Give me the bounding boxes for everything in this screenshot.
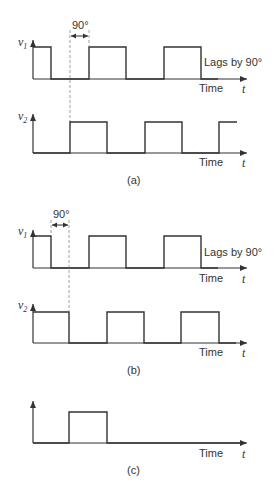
v2-square-wave xyxy=(33,122,237,153)
phase-label: 90° xyxy=(53,208,70,220)
single-pulse-wave xyxy=(33,412,240,443)
v1-label: v1 xyxy=(18,35,27,51)
time-axis-label: Time xyxy=(199,272,223,284)
t-axis-label: t xyxy=(242,447,246,461)
lag-note: Lags by 90° xyxy=(204,56,262,68)
lag-note: Lags by 90° xyxy=(204,246,262,258)
v1-square-wave xyxy=(33,236,218,268)
caption-b: (b) xyxy=(127,364,140,376)
v1-square-wave xyxy=(33,47,218,79)
t-axis-label: t xyxy=(242,156,246,170)
panel-b-v2-plot: v2 Time t xyxy=(18,298,247,360)
time-axis-label: Time xyxy=(199,82,223,94)
time-axis-label: Time xyxy=(199,447,223,459)
v2-label: v2 xyxy=(18,109,27,125)
v2-label: v2 xyxy=(18,298,27,314)
time-axis-label: Time xyxy=(199,346,223,358)
t-axis-label: t xyxy=(242,346,246,360)
panel-a-v1-plot: v1 90° Lags by 90° Time t xyxy=(18,19,262,96)
time-axis-label: Time xyxy=(199,156,223,168)
caption-a: (a) xyxy=(127,174,140,186)
v1-label: v1 xyxy=(18,224,27,240)
caption-c: (c) xyxy=(127,464,140,476)
panel-a-v2-plot: v2 Time t xyxy=(18,109,247,170)
panel-b: v1 90° Lags by 90° Time t v2 Time t (b) xyxy=(18,208,262,376)
v2-square-wave xyxy=(33,312,236,343)
t-axis-label: t xyxy=(242,82,246,96)
panel-b-v1-plot: v1 90° Lags by 90° Time t xyxy=(18,208,262,286)
phase-label: 90° xyxy=(72,19,89,31)
panel-a: v1 90° Lags by 90° Time t v2 Time t (a) xyxy=(18,19,262,186)
panel-c: Time t (c) xyxy=(33,401,247,476)
phase-diagram: v1 90° Lags by 90° Time t v2 Time t (a) … xyxy=(0,0,273,501)
t-axis-label: t xyxy=(242,272,246,286)
